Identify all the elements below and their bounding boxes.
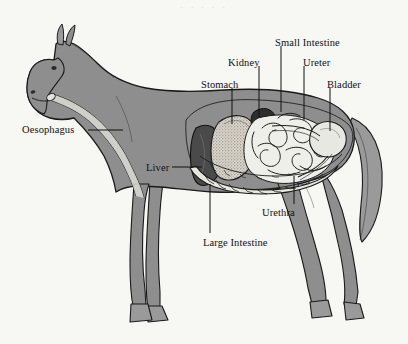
eye	[51, 66, 56, 70]
hind-leg-near	[276, 176, 326, 304]
front-leg-far	[146, 182, 163, 308]
label-bladder: Bladder	[327, 80, 361, 91]
ear-near	[57, 24, 63, 45]
ear-far	[66, 25, 75, 46]
label-kidney: Kidney	[228, 58, 260, 69]
hoof-front-near	[130, 304, 152, 322]
bladder-organ	[310, 122, 347, 157]
label-urethra: Urethra	[262, 208, 295, 219]
horse-anatomy-illustration	[0, 0, 408, 344]
label-ureter: Ureter	[303, 58, 330, 69]
label-large-intestine: Large Intestine	[203, 238, 268, 249]
hind-leg-far	[322, 176, 358, 306]
label-small-intestine: Small Intestine	[275, 38, 340, 49]
label-stomach: Stomach	[201, 80, 238, 91]
anatomy-diagram: . . . . .	[0, 0, 408, 344]
label-liver: Liver	[146, 163, 169, 174]
hoof-hind-far	[344, 302, 364, 320]
label-oesophagus: Oesophagus	[22, 125, 74, 136]
hoof-hind-near	[310, 300, 332, 318]
